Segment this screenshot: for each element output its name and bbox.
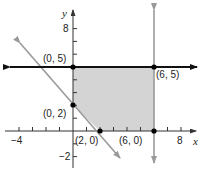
label-point-6-0: (6, 0) (119, 135, 142, 146)
tick-label-y-8: 8 (63, 23, 69, 34)
tick-label-x-neg4: −4 (11, 135, 23, 146)
y-axis-label: y (61, 7, 67, 19)
point-0-5 (70, 64, 75, 69)
label-point-0-5: (0, 5) (43, 53, 66, 64)
label-point-6-5: (6, 5) (156, 69, 179, 80)
point-2-0 (97, 128, 102, 133)
x-axis-label: x (192, 135, 198, 147)
tick-label-x-8: 8 (177, 135, 183, 146)
shaded-region (73, 67, 154, 131)
label-point-2-0: (2, 0) (75, 135, 98, 146)
tick-label-y-neg2: −2 (59, 151, 71, 162)
label-point-0-2: (0, 2) (43, 108, 66, 119)
graph-canvas: y x 8 −2 −4 8 (0, 5) (6, 5) (0, 2) (2, 0… (0, 0, 203, 172)
point-0-2 (70, 102, 75, 107)
point-6-0 (151, 128, 156, 133)
